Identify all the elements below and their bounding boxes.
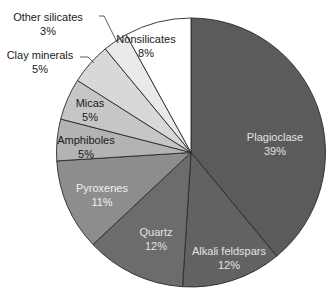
label-value: 12% <box>218 259 240 271</box>
label-name: Micas <box>76 97 105 109</box>
slice-label-clay-minerals: Clay minerals 5% <box>7 49 74 75</box>
label-value: 3% <box>40 25 56 37</box>
label-value: 11% <box>91 196 112 208</box>
leader-line <box>99 16 117 42</box>
label-name: Plagioclase <box>247 131 303 143</box>
label-value: 8% <box>138 47 154 59</box>
label-value: 12% <box>145 240 167 252</box>
label-name: Clay minerals <box>7 49 74 61</box>
label-value: 39% <box>264 145 286 157</box>
label-value: 5% <box>78 148 94 160</box>
label-name: Alkali feldspars <box>192 245 266 257</box>
pie-chart: Plagioclase 39% Alkali feldspars 12% Qua… <box>0 0 334 301</box>
label-value: 5% <box>32 63 48 75</box>
label-name: Quartz <box>139 226 172 238</box>
label-value: 5% <box>82 111 98 123</box>
label-name: Nonsilicates <box>116 33 176 45</box>
slice-label-other-silicates: Other silicates 3% <box>13 11 83 37</box>
label-name: Other silicates <box>13 11 83 23</box>
label-name: Amphiboles <box>57 134 115 146</box>
label-name: Pyroxenes <box>76 182 128 194</box>
